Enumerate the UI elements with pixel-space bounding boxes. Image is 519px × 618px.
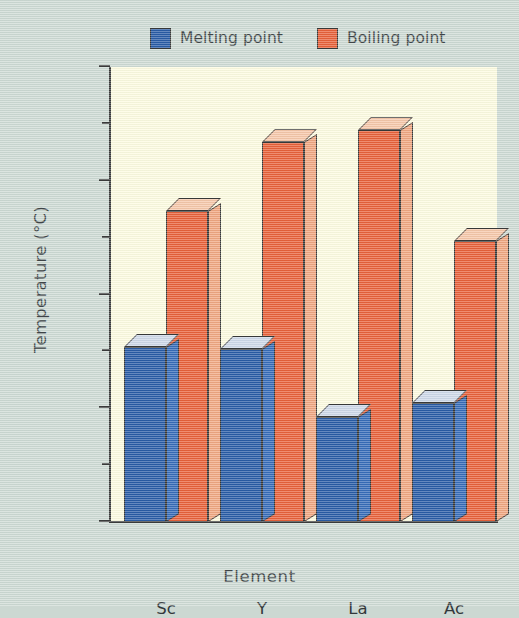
y-axis-title: Temperature (°C) — [31, 130, 50, 430]
bar-Sc-melting — [124, 334, 166, 522]
y-tick-major — [99, 179, 110, 181]
y-tick-major — [99, 406, 110, 408]
y-axis-line — [109, 67, 111, 523]
y-tick-major — [99, 520, 110, 522]
bar-side-face — [166, 339, 179, 522]
bar-front-face — [220, 349, 262, 522]
bar-front-face — [124, 347, 166, 522]
x-tick-label-Sc: Sc — [121, 599, 211, 618]
legend-swatch-boiling-point — [317, 28, 338, 49]
legend-swatch-melting-point — [150, 28, 171, 49]
x-axis-title: Element — [0, 567, 519, 586]
y-tick-minor — [102, 463, 110, 465]
legend-label-melting-point: Melting point — [180, 29, 283, 47]
y-tick-major — [99, 65, 110, 67]
plot-area: 01000200030004000 ScYLaAc — [110, 67, 497, 522]
legend-item-melting-point: Melting point — [150, 28, 283, 49]
bar-side-face — [496, 233, 509, 522]
bar-side-face — [358, 409, 371, 522]
y-tick-major — [99, 293, 110, 295]
x-tick-label-Ac: Ac — [409, 599, 499, 618]
y-tick-minor — [102, 349, 110, 351]
x-tick-label-Y: Y — [217, 599, 307, 618]
bar-front-face — [412, 403, 454, 522]
bar-Ac-melting — [412, 390, 454, 522]
legend-label-boiling-point: Boiling point — [347, 29, 445, 47]
bar-La-melting — [316, 404, 358, 522]
legend-item-boiling-point: Boiling point — [317, 28, 445, 49]
bar-side-face — [262, 341, 275, 522]
bar-front-face — [316, 417, 358, 522]
y-tick-minor — [102, 122, 110, 124]
chart-legend: Melting point Boiling point — [150, 24, 480, 52]
bar-Y-melting — [220, 336, 262, 522]
y-tick-minor — [102, 236, 110, 238]
bar-side-face — [454, 394, 467, 522]
x-tick-label-La: La — [313, 599, 403, 618]
